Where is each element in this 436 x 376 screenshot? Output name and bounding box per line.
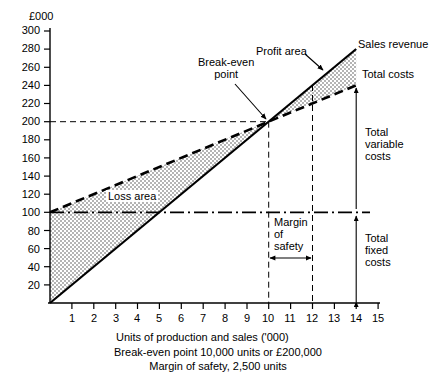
profit-area-label: Profit area <box>256 45 307 57</box>
y-tick-label-120: 120 <box>14 189 40 200</box>
y-tick-label-160: 160 <box>14 153 40 164</box>
y-tick-label-180: 180 <box>14 134 40 145</box>
y-tick-label-40: 40 <box>14 262 40 273</box>
x-tick-label-3: 3 <box>107 313 125 324</box>
sales-revenue-line <box>50 49 356 303</box>
x-tick-label-9: 9 <box>238 313 256 324</box>
x-tick-label-12: 12 <box>303 313 321 324</box>
caption-line-2: Margin of safety, 2,500 units <box>0 359 436 373</box>
x-tick-label-14: 14 <box>347 313 365 324</box>
x-tick-label-2: 2 <box>85 313 103 324</box>
y-axis-caption: £000 <box>29 10 53 22</box>
y-tick-label-60: 60 <box>14 244 40 255</box>
y-tick-label-300: 300 <box>14 25 40 36</box>
x-tick-label-13: 13 <box>325 313 343 324</box>
x-axis-caption: Units of production and sales ('000) <box>116 331 289 343</box>
x-tick-label-11: 11 <box>281 313 299 324</box>
y-tick-label-80: 80 <box>14 226 40 237</box>
total-variable-costs-label: Total variable costs <box>365 126 404 162</box>
margin-of-safety-label: Margin of safety <box>274 216 308 252</box>
x-tick-label-5: 5 <box>150 313 168 324</box>
break-even-point-label: Break-even point <box>198 56 254 80</box>
break-even-chart: £000 300 280 260 240 220 200 180 160 140… <box>0 0 436 376</box>
caption-line-1: Break-even point 10,000 units or £200,00… <box>0 345 436 359</box>
y-tick-label-140: 140 <box>14 171 40 182</box>
loss-area-label: Loss area <box>106 190 158 202</box>
y-tick-label-20: 20 <box>14 280 40 291</box>
break-even-leader-line <box>235 84 266 119</box>
x-tick-label-4: 4 <box>128 313 146 324</box>
y-tick-label-240: 240 <box>14 80 40 91</box>
sales-revenue-label: Sales revenue <box>358 38 428 50</box>
y-tick-label-200: 200 <box>14 116 40 127</box>
total-fixed-costs-label: Total fixed costs <box>365 232 391 268</box>
x-tick-label-8: 8 <box>216 313 234 324</box>
x-tick-label-1: 1 <box>63 313 81 324</box>
total-costs-label: Total costs <box>362 68 414 80</box>
y-tick-label-260: 260 <box>14 62 40 73</box>
x-tick-label-6: 6 <box>172 313 190 324</box>
y-tick-label-100: 100 <box>14 207 40 218</box>
y-axis <box>44 28 50 303</box>
x-tick-label-7: 7 <box>194 313 212 324</box>
x-axis <box>48 303 380 309</box>
profit-area-leader-line <box>305 54 323 70</box>
x-tick-label-15: 15 <box>369 313 387 324</box>
y-tick-label-220: 220 <box>14 98 40 109</box>
x-tick-label-10: 10 <box>259 313 277 324</box>
y-tick-label-280: 280 <box>14 43 40 54</box>
